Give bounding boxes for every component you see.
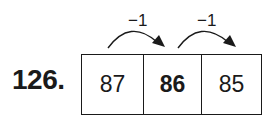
number-strip: 87 86 85 bbox=[81, 54, 262, 115]
arrow-icon bbox=[178, 31, 236, 48]
arrow-label: −1 bbox=[197, 12, 216, 29]
cell: 85 bbox=[202, 55, 261, 114]
cell: 87 bbox=[82, 55, 144, 114]
arrows-diagram bbox=[0, 0, 275, 60]
problem-number: 126. bbox=[12, 66, 65, 94]
arrow-icon bbox=[108, 31, 165, 48]
arrow-label: −1 bbox=[128, 12, 147, 29]
cell-highlighted: 86 bbox=[144, 55, 202, 114]
